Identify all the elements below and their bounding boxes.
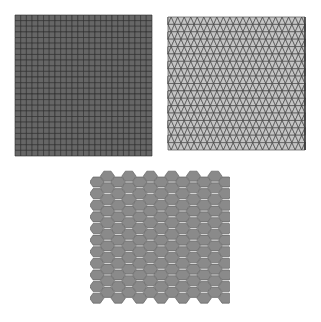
square-cell xyxy=(61,77,67,83)
square-cell xyxy=(26,105,32,111)
square-cell xyxy=(95,66,101,72)
square-cell xyxy=(118,43,124,49)
square-cell xyxy=(135,83,141,89)
square-cell xyxy=(49,49,55,55)
square-cell xyxy=(123,117,129,123)
square-cell xyxy=(21,43,27,49)
square-cell xyxy=(112,150,118,156)
square-cell xyxy=(112,145,118,151)
square-cell xyxy=(146,150,152,156)
square-cell xyxy=(146,133,152,139)
square-cell xyxy=(49,32,55,38)
square-cell xyxy=(146,117,152,123)
square-cell xyxy=(49,54,55,60)
square-cell xyxy=(61,83,67,89)
square-cell xyxy=(61,21,67,27)
square-cell xyxy=(118,32,124,38)
square-cell xyxy=(84,71,90,77)
square-cell xyxy=(141,122,147,128)
square-cell xyxy=(32,60,38,66)
square-cell xyxy=(61,71,67,77)
square-cell xyxy=(106,66,112,72)
square-cell xyxy=(89,117,95,123)
square-cell xyxy=(26,122,32,128)
square-cell xyxy=(21,139,27,145)
square-cell xyxy=(15,128,21,134)
square-cell xyxy=(112,122,118,128)
square-cell xyxy=(118,133,124,139)
square-cell xyxy=(15,60,21,66)
square-cell xyxy=(61,38,67,44)
square-cell xyxy=(49,128,55,134)
square-cell xyxy=(146,66,152,72)
square-cell xyxy=(123,43,129,49)
square-cell xyxy=(141,54,147,60)
square-cell xyxy=(129,105,135,111)
square-cell xyxy=(26,88,32,94)
square-cell xyxy=(106,15,112,21)
square-cell xyxy=(89,66,95,72)
square-cell xyxy=(112,83,118,89)
square-cell xyxy=(26,21,32,27)
square-cell xyxy=(101,128,107,134)
square-cell xyxy=(129,26,135,32)
square-cell xyxy=(106,100,112,106)
square-cell xyxy=(118,38,124,44)
square-cell xyxy=(61,111,67,117)
square-cell xyxy=(135,88,141,94)
square-cell xyxy=(15,66,21,72)
square-cell xyxy=(141,139,147,145)
square-cell xyxy=(49,60,55,66)
square-cell xyxy=(78,100,84,106)
square-cell xyxy=(95,32,101,38)
square-cell xyxy=(123,54,129,60)
square-cell xyxy=(55,128,61,134)
square-cell xyxy=(21,60,27,66)
square-cell xyxy=(101,21,107,27)
square-cell xyxy=(135,26,141,32)
square-cell xyxy=(66,21,72,27)
square-cell xyxy=(32,122,38,128)
square-cell xyxy=(141,94,147,100)
square-cell xyxy=(38,32,44,38)
square-cell xyxy=(129,122,135,128)
square-cell xyxy=(129,150,135,156)
square-cell xyxy=(66,150,72,156)
square-cell xyxy=(101,94,107,100)
square-cell xyxy=(141,150,147,156)
square-cell xyxy=(44,94,50,100)
square-cell xyxy=(101,105,107,111)
square-cell xyxy=(135,111,141,117)
square-cell xyxy=(66,26,72,32)
square-cell xyxy=(49,100,55,106)
square-cell xyxy=(84,100,90,106)
square-cell xyxy=(21,38,27,44)
square-cell xyxy=(101,66,107,72)
square-cell xyxy=(78,133,84,139)
square-cell xyxy=(66,60,72,66)
square-cell xyxy=(141,60,147,66)
square-cell xyxy=(49,71,55,77)
square-cell xyxy=(21,77,27,83)
square-cell xyxy=(106,60,112,66)
square-cell xyxy=(101,71,107,77)
square-cell xyxy=(44,21,50,27)
square-cell xyxy=(146,100,152,106)
square-cell xyxy=(141,128,147,134)
square-cell xyxy=(95,100,101,106)
square-cell xyxy=(26,133,32,139)
square-cell xyxy=(44,117,50,123)
square-cell xyxy=(78,145,84,151)
square-cell xyxy=(141,117,147,123)
square-cell xyxy=(123,139,129,145)
square-cell xyxy=(118,26,124,32)
square-cell xyxy=(21,71,27,77)
square-cell xyxy=(84,145,90,151)
square-cell xyxy=(21,88,27,94)
square-cell xyxy=(112,15,118,21)
square-cell xyxy=(106,139,112,145)
square-cell xyxy=(15,105,21,111)
square-cell xyxy=(26,38,32,44)
square-cell xyxy=(89,94,95,100)
square-cell xyxy=(32,32,38,38)
